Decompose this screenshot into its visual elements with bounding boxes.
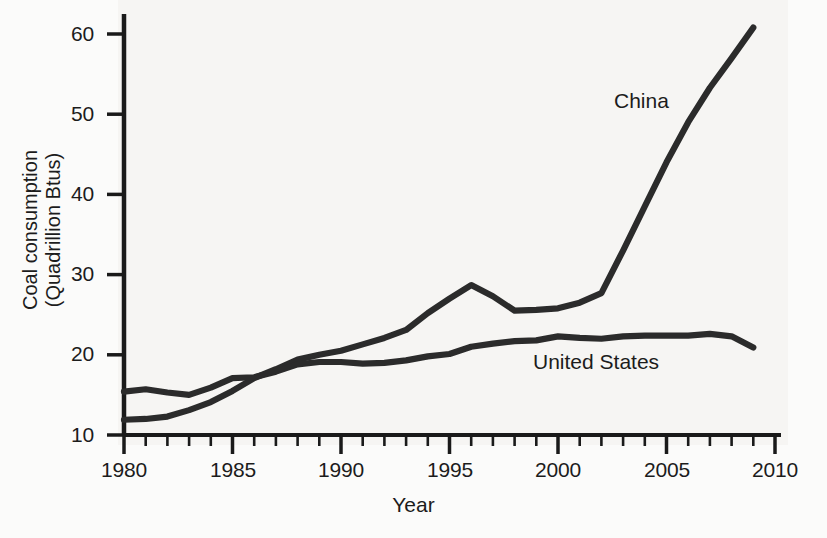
x-tick-label: 1995 xyxy=(410,458,490,482)
x-tick-label: 1990 xyxy=(301,458,381,482)
series-label-china: China xyxy=(614,89,669,113)
x-tick-label: 2000 xyxy=(518,458,598,482)
y-axis-title-line1: Coal consumption xyxy=(19,105,42,355)
x-tick-label: 1980 xyxy=(84,458,164,482)
series-label-united-states: United States xyxy=(533,350,659,374)
x-axis-title: Year xyxy=(0,493,827,517)
y-tick-label: 60 xyxy=(38,22,94,46)
x-tick-label: 2010 xyxy=(735,458,815,482)
x-tick-label: 1985 xyxy=(193,458,273,482)
chart-figure: 60 50 40 30 20 10 1980 1985 1990 1995 20… xyxy=(0,0,827,538)
y-axis-title: Coal consumption (Quadrillion Btus) xyxy=(19,105,65,355)
y-axis-title-line2: (Quadrillion Btus) xyxy=(42,105,65,355)
x-tick-label: 2005 xyxy=(627,458,707,482)
y-tick-label: 10 xyxy=(38,423,94,447)
